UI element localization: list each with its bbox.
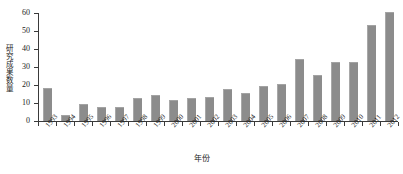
bar xyxy=(331,62,340,121)
y-tick-label: 20 xyxy=(14,81,30,89)
bar-series xyxy=(38,13,398,121)
y-axis-title: 研究成果数量 xyxy=(1,22,15,114)
y-tick-label: 50 xyxy=(14,27,30,35)
bar xyxy=(295,59,304,121)
bar xyxy=(385,12,394,121)
y-tick-label: 0 xyxy=(14,117,30,125)
bar-chart: 研究成果数量 0102030405060 1993199419951996199… xyxy=(0,0,403,174)
bar xyxy=(367,25,376,121)
bar xyxy=(349,62,358,121)
bar xyxy=(313,75,322,121)
y-tick-label: 30 xyxy=(14,63,30,71)
y-tick-label: 10 xyxy=(14,99,30,107)
x-axis-title: 年份 xyxy=(0,152,403,163)
y-tick-label: 40 xyxy=(14,45,30,53)
x-tick xyxy=(398,122,399,126)
y-tick-label: 60 xyxy=(14,9,30,17)
plot-area xyxy=(38,13,398,122)
